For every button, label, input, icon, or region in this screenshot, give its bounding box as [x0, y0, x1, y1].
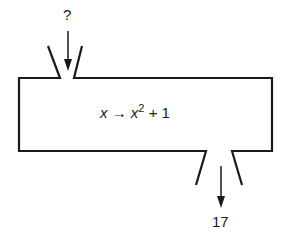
function-rule: x → x2 + 1: [100, 103, 170, 120]
rule-arrow: →: [112, 104, 127, 121]
input-arrow-head: [64, 59, 72, 71]
rule-exponent: 2: [138, 102, 144, 114]
output-arrow-head: [217, 196, 225, 208]
function-machine-diagram: [0, 0, 288, 251]
input-label: ?: [63, 7, 71, 22]
output-label: 17: [212, 214, 229, 229]
rule-input-variable: x: [100, 104, 108, 121]
rule-suffix: + 1: [149, 104, 170, 121]
